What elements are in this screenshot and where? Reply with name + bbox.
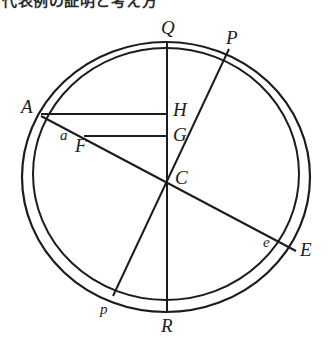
point-label-F: F [75, 136, 87, 155]
point-label-H: H [173, 100, 187, 119]
point-label-P: P [226, 28, 238, 47]
figure-page: 代表例の証明と考え方 Q P A H G a F C e E p R [0, 0, 336, 349]
point-label-E: E [300, 240, 312, 259]
point-label-e: e [263, 235, 270, 250]
diameter-line-Pp [113, 49, 229, 296]
point-label-R: R [161, 316, 173, 335]
point-label-p: p [100, 302, 108, 317]
geometry-figure [0, 0, 336, 349]
point-label-A: A [21, 97, 33, 116]
point-label-a: a [60, 128, 68, 143]
point-label-Q: Q [161, 18, 175, 37]
point-label-G: G [173, 125, 187, 144]
point-label-C: C [175, 168, 188, 187]
